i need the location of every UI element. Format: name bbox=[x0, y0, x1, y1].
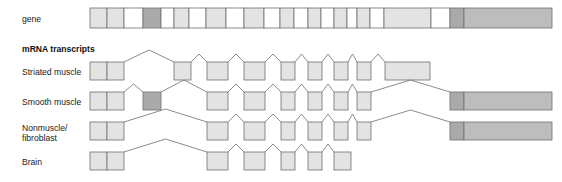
transcript-exon bbox=[107, 62, 124, 80]
gene-segment bbox=[143, 8, 161, 28]
transcript-exon bbox=[334, 92, 348, 110]
transcript-exon bbox=[143, 92, 161, 110]
transcript-label: Striated muscle bbox=[22, 67, 81, 77]
gene-segment bbox=[370, 8, 384, 28]
gene-segment bbox=[450, 8, 464, 28]
transcript-exon bbox=[107, 92, 124, 110]
gene-segment bbox=[280, 8, 294, 28]
transcript-exon bbox=[385, 62, 430, 80]
gene-segment bbox=[206, 8, 226, 28]
gene-label-group: gene bbox=[22, 14, 41, 24]
gene-segment bbox=[107, 8, 124, 28]
transcript-exon bbox=[207, 62, 228, 80]
gene-segment bbox=[308, 8, 321, 28]
transcript-exon bbox=[207, 152, 228, 170]
gene-segment bbox=[334, 8, 347, 28]
transcript-label: Smooth muscle bbox=[22, 97, 81, 107]
transcript-exon bbox=[90, 62, 107, 80]
transcript-exon bbox=[450, 92, 464, 110]
transcript-exon bbox=[308, 122, 322, 140]
transcript-exon bbox=[308, 92, 322, 110]
gene-segment bbox=[264, 8, 280, 28]
gene-segment bbox=[226, 8, 244, 28]
gene-segment bbox=[189, 8, 206, 28]
transcript-exon bbox=[357, 92, 371, 110]
gene-segment bbox=[431, 8, 450, 28]
transcript-exon bbox=[90, 152, 107, 170]
gene-segment bbox=[464, 8, 552, 28]
transcript-exon bbox=[334, 152, 351, 170]
gene-segment bbox=[294, 8, 308, 28]
transcript-label: Brain bbox=[22, 157, 42, 167]
transcript-exon bbox=[281, 122, 295, 140]
transcript-label: Nonmuscle/ bbox=[22, 123, 68, 133]
transcript-exon bbox=[107, 152, 124, 170]
gene-segment bbox=[124, 8, 143, 28]
gene-segment bbox=[384, 8, 431, 28]
transcript-exon bbox=[334, 62, 348, 80]
transcript-exon bbox=[450, 122, 464, 140]
alternative-splicing-diagram: gene mRNA transcripts Striated muscleSmo… bbox=[0, 0, 562, 182]
transcript-exon bbox=[244, 152, 265, 170]
transcript-exon bbox=[281, 152, 295, 170]
transcript-exon bbox=[207, 122, 228, 140]
transcript-exon bbox=[174, 62, 191, 80]
gene-segment bbox=[161, 8, 174, 28]
gene-track bbox=[90, 8, 552, 28]
gene-segment bbox=[90, 8, 107, 28]
transcript-exon bbox=[281, 62, 295, 80]
gene-segment bbox=[174, 8, 189, 28]
transcript-exon bbox=[244, 62, 265, 80]
transcript-exon bbox=[308, 152, 322, 170]
transcript-exon bbox=[207, 92, 228, 110]
transcript-exon bbox=[281, 92, 295, 110]
gene-segment bbox=[321, 8, 334, 28]
transcript-exon bbox=[334, 122, 348, 140]
transcript-exon bbox=[90, 122, 107, 140]
gene-segment bbox=[347, 8, 357, 28]
transcript-exon bbox=[308, 62, 322, 80]
transcript-exon bbox=[107, 122, 124, 140]
transcript-exon bbox=[357, 122, 371, 140]
transcript-exon bbox=[90, 92, 107, 110]
transcript-exon bbox=[244, 122, 265, 140]
transcript-label-line2: fibroblast bbox=[22, 133, 57, 143]
gene-segment bbox=[357, 8, 370, 28]
transcripts-header-group: mRNA transcripts bbox=[22, 44, 95, 54]
gene-label: gene bbox=[22, 14, 41, 24]
transcript-exon bbox=[357, 62, 371, 80]
gene-segment bbox=[244, 8, 264, 28]
transcript-exon bbox=[244, 92, 265, 110]
transcript-exon bbox=[464, 92, 552, 110]
mrna-transcripts-header: mRNA transcripts bbox=[22, 44, 95, 54]
transcript-exon bbox=[464, 122, 552, 140]
